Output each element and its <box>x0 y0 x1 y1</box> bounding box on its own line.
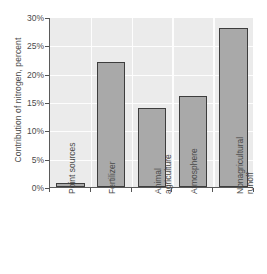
vertical-gridline <box>132 18 134 187</box>
y-axis-tick-label: 0% <box>14 183 44 193</box>
y-axis-tick-mark <box>45 46 49 47</box>
y-axis-tick-mark <box>45 160 49 161</box>
x-axis-category-label-line: Nonagricultural <box>236 137 246 194</box>
y-axis-tick-mark <box>45 188 49 189</box>
x-axis-category-label-line: runoff <box>245 137 255 194</box>
bar-chart-figure: Contribution of nitrogen, percent 0%5%10… <box>0 0 267 274</box>
x-axis-tick-marks <box>49 188 254 193</box>
y-axis-tick-label: 10% <box>14 126 44 136</box>
plot-area <box>49 18 253 188</box>
x-axis-category-label-line: agriculture <box>164 154 174 194</box>
x-axis-category-label: Fertilizer <box>108 161 118 194</box>
y-axis-tick-mark <box>45 131 49 132</box>
x-axis-category-label-line: Atmosphere <box>190 148 200 194</box>
x-axis-category-label: Atmosphere <box>190 148 200 194</box>
x-axis-category-label: Nonagriculturalrunoff <box>236 137 255 194</box>
y-axis-tick-label: 15% <box>14 98 44 108</box>
x-axis-tick-mark <box>90 188 91 192</box>
y-axis-tick-label: 25% <box>14 41 44 51</box>
y-axis-tick-label: 5% <box>14 155 44 165</box>
x-axis-tick-mark <box>49 188 50 192</box>
x-axis-category-label-line: Fertilizer <box>108 161 118 194</box>
y-axis-tick-mark <box>45 75 49 76</box>
x-axis-category-label: Point sources <box>68 143 78 195</box>
x-axis-category-label-line: Point sources <box>68 143 78 195</box>
y-axis-tick-mark <box>45 18 49 19</box>
vertical-gridline <box>213 18 215 187</box>
y-axis-tick-label: 30% <box>14 13 44 23</box>
x-axis-category-labels: Point sourcesFertilizerAnimalagriculture… <box>49 194 253 274</box>
y-axis-tick-labels: 0%5%10%15%20%25%30% <box>14 18 44 188</box>
y-axis-tick-mark <box>45 103 49 104</box>
y-axis-tick-label: 20% <box>14 70 44 80</box>
x-axis-category-label: Animalagriculture <box>154 154 173 194</box>
x-axis-tick-mark <box>131 188 132 192</box>
vertical-gridline <box>91 18 93 187</box>
x-axis-tick-mark <box>212 188 213 192</box>
